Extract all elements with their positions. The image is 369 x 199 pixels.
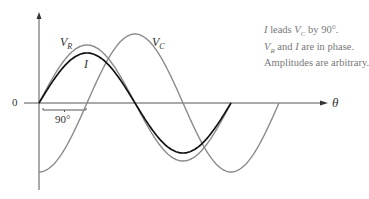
vc-label: VC xyxy=(152,36,165,51)
note-line-2: VR and I are in phase. xyxy=(264,41,369,58)
phase-90-label: 90° xyxy=(55,114,70,125)
annotation-note: I leads VC by 90°. VR and I are in phase… xyxy=(264,24,369,70)
vr-label: VR xyxy=(60,36,72,51)
horizontal-axis-arrow-icon xyxy=(320,101,328,106)
note-line-1: I leads VC by 90°. xyxy=(264,24,369,41)
note-line-3: Amplitudes are arbitrary. xyxy=(264,57,369,70)
origin-label: 0 xyxy=(12,97,18,108)
theta-axis-label: θ xyxy=(332,96,338,109)
phase-bracket xyxy=(43,108,86,112)
vertical-axis-arrow-icon xyxy=(37,12,42,19)
i-label: I xyxy=(84,58,88,70)
